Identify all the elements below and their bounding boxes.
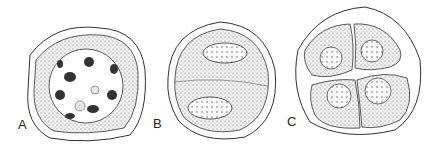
nucleus-b-upper	[203, 43, 247, 63]
panel-a	[28, 27, 146, 141]
nucleus-c-1	[320, 47, 342, 69]
nucleus-c-2	[361, 40, 383, 62]
nucleus-c-4	[365, 78, 391, 104]
nucleus-c-3	[327, 84, 351, 108]
panel-label-b: B	[153, 116, 162, 131]
figure-canvas	[0, 0, 441, 150]
panel-c	[296, 7, 421, 135]
panel-label-a: A	[18, 117, 27, 132]
nucleolus-1	[91, 86, 99, 94]
panel-b	[168, 22, 276, 139]
nucleolus-2	[75, 101, 85, 111]
panel-label-c: C	[287, 114, 296, 129]
nucleus-b-lower	[188, 97, 232, 119]
